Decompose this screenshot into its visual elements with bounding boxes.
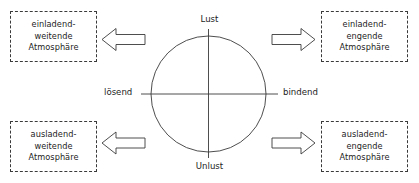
arrow-left-icon-top-left xyxy=(102,29,145,51)
quadrant-label-line: Atmosphäre xyxy=(28,152,78,164)
quadrant-box-top-left: einladend- weitende Atmosphäre xyxy=(10,11,97,62)
arrow-right-icon-bottom-right xyxy=(272,132,315,154)
quadrant-label-line: ausladend- xyxy=(31,129,77,141)
quadrant-label-line: einladend- xyxy=(32,19,76,31)
atmosphere-quadrant-diagram: Lust Unlust lösend bindend einladend- we… xyxy=(0,0,419,183)
quadrant-label-line: engende xyxy=(346,141,382,153)
quadrant-box-bottom-right: ausladend- engende Atmosphäre xyxy=(321,121,408,172)
quadrant-label-line: einladend- xyxy=(343,19,387,31)
arrow-right-icon-top-right xyxy=(272,29,315,51)
quadrant-label-line: Atmosphäre xyxy=(28,42,78,54)
axis-label-left: lösend xyxy=(104,87,132,97)
quadrant-label-line: Atmosphäre xyxy=(339,152,389,164)
quadrant-label-line: engende xyxy=(346,31,382,43)
quadrant-label-line: Atmosphäre xyxy=(339,42,389,54)
axis-label-right: bindend xyxy=(283,87,318,97)
quadrant-label-line: ausladend- xyxy=(342,129,388,141)
arrow-left-icon-bottom-left xyxy=(102,132,145,154)
quadrant-box-top-right: einladend- engende Atmosphäre xyxy=(321,11,408,62)
quadrant-box-bottom-left: ausladend- weitende Atmosphäre xyxy=(10,121,97,172)
quadrant-label-line: weitende xyxy=(34,141,72,153)
quadrant-label-line: weitende xyxy=(34,31,72,43)
